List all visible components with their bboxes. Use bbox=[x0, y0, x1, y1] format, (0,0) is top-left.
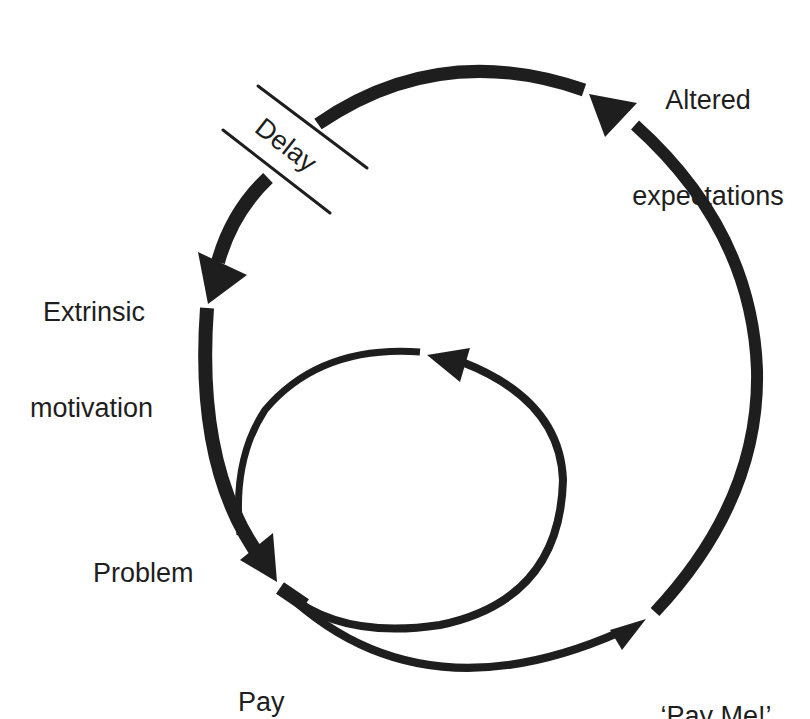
arc-top bbox=[318, 71, 584, 124]
altered-expectations-line1: Altered bbox=[608, 84, 808, 116]
arrowhead-inner-loop-icon bbox=[427, 348, 470, 382]
pay-fix-line1: Pay bbox=[238, 686, 285, 718]
arc-bottom bbox=[285, 592, 620, 668]
problem-line1: Problem bbox=[93, 557, 194, 589]
altered-expectations-line2: expectations bbox=[608, 180, 808, 212]
arc-inner-left bbox=[238, 351, 420, 535]
extrinsic-motivation-line2: motivation bbox=[30, 392, 153, 424]
extrinsic-motivation-line1: Extrinsic bbox=[30, 296, 153, 328]
node-altered-expectations: Altered expectations bbox=[608, 20, 808, 276]
node-pay-fix: Pay ‘fix’ bbox=[238, 622, 285, 719]
causal-loop-diagram: Altered expectations Extrinsic motivatio… bbox=[0, 0, 810, 719]
node-extrinsic-motivation: Extrinsic motivation bbox=[30, 232, 153, 488]
node-problem: Problem bbox=[93, 493, 194, 653]
arc-left-upper bbox=[218, 178, 268, 262]
pay-fix-stub bbox=[280, 588, 305, 605]
pay-me-line1: ‘Pay Me!’ bbox=[636, 700, 796, 719]
node-pay-me-reinforced: ‘Pay Me!’ reinforced bbox=[636, 636, 796, 719]
arc-inner-right bbox=[285, 362, 563, 629]
